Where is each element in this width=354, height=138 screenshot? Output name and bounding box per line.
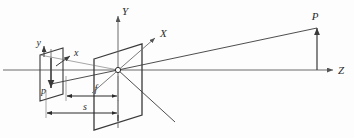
focal-length-label: f: [95, 83, 99, 94]
world-x-axis-line: [92, 38, 155, 93]
ray-lower-segment: [51, 70, 118, 84]
image-y-axis-label: y: [36, 37, 42, 48]
distance-label: s: [83, 101, 87, 112]
z-axis-group: Z: [3, 64, 345, 76]
focal-length-dimension: f: [66, 76, 118, 101]
world-x-axis-label: X: [159, 27, 168, 39]
world-y-axis-label: Y: [122, 5, 130, 17]
world-point-label: P: [311, 10, 319, 22]
image-x-axis-group: x: [56, 47, 79, 66]
projection-center-marker: [115, 67, 120, 72]
world-point-group: P: [311, 10, 319, 70]
z-axis-label: Z: [338, 64, 345, 76]
diagram-canvas: Z y x p Y: [0, 0, 354, 138]
image-point-label: p: [40, 85, 46, 96]
world-y-axis-group: Y: [118, 5, 130, 128]
ray-upper-segment: [118, 28, 317, 70]
perspective-projection-figure: Z y x p Y: [0, 0, 354, 138]
image-x-axis-label: x: [73, 47, 79, 58]
distance-dimension: s: [46, 90, 118, 118]
projection-rays: [40, 28, 317, 122]
ray-base-segment: [118, 70, 175, 122]
world-x-axis-group: X: [92, 27, 168, 93]
